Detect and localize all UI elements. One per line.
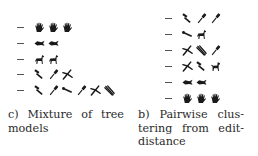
caption-word: clus- [217, 108, 244, 122]
hand-icon [210, 93, 221, 104]
caption-word: from [182, 122, 209, 136]
icon-group [182, 29, 207, 40]
pliers-icon [182, 61, 193, 72]
horse-icon [34, 54, 45, 65]
icon-group [182, 61, 221, 72]
pliers-icon [182, 45, 193, 56]
row-marker [17, 43, 24, 44]
icon-group [182, 93, 221, 104]
hammer-icon [182, 13, 193, 24]
scissors-icon [104, 85, 115, 96]
caption-word: tering [138, 122, 172, 136]
fish-icon [34, 38, 45, 49]
pliers-icon [90, 85, 101, 96]
caption-c: c) Mixture of tree models [8, 108, 124, 135]
icon-group [34, 22, 73, 33]
row-marker [165, 66, 172, 67]
scissors-icon [196, 45, 207, 56]
row-marker [165, 18, 172, 19]
hand-icon [48, 22, 59, 33]
screwdriver-icon [210, 45, 221, 56]
hammer-icon [34, 69, 45, 80]
caption-word: edit- [218, 122, 244, 136]
icon-group [34, 85, 115, 96]
caption-word: c) [8, 108, 19, 122]
cluster-row [17, 52, 59, 66]
icon-group [182, 77, 207, 88]
hand-icon [62, 22, 73, 33]
icon-group [34, 69, 73, 80]
row-marker [17, 74, 24, 75]
horse-icon [196, 29, 207, 40]
wrench-icon [182, 29, 193, 40]
wrench-icon [62, 85, 73, 96]
screwdriver-icon [48, 85, 59, 96]
cluster-row [165, 11, 221, 25]
row-marker [165, 50, 172, 51]
row-marker [17, 59, 24, 60]
cluster-row [165, 59, 221, 73]
screwdriver-icon [210, 13, 221, 24]
cluster-row [165, 91, 221, 105]
cluster-row [165, 75, 207, 89]
cluster-row [17, 83, 115, 97]
caption-line: b) Pairwise clus- [138, 108, 244, 122]
dog-icon [210, 61, 221, 72]
screwdriver-icon [196, 13, 207, 24]
horse-icon [48, 54, 59, 65]
row-marker [17, 27, 24, 28]
icon-group [182, 13, 221, 24]
screwdriver-icon [48, 69, 59, 80]
pliers-icon [62, 69, 73, 80]
cluster-row [17, 20, 73, 34]
caption-word: Pairwise [159, 108, 207, 122]
caption-line: distance [138, 135, 244, 149]
fish-icon [48, 38, 59, 49]
hand-icon [196, 93, 207, 104]
cluster-row [17, 67, 73, 81]
caption-word: b) [138, 108, 150, 122]
row-marker [165, 82, 172, 83]
hammer-icon [34, 85, 45, 96]
icon-group [34, 38, 59, 49]
caption-word: tree [101, 108, 124, 122]
hand-icon [34, 22, 45, 33]
screwdriver-icon [76, 85, 87, 96]
cluster-row [17, 36, 59, 50]
hammer-icon [196, 61, 207, 72]
caption-word: Mixture [27, 108, 72, 122]
row-marker [17, 90, 24, 91]
cluster-row [165, 27, 207, 41]
fish-icon [182, 77, 193, 88]
caption-word: of [81, 108, 92, 122]
row-marker [165, 98, 172, 99]
hand-icon [182, 93, 193, 104]
icon-group [182, 45, 221, 56]
cluster-row [165, 43, 221, 57]
caption-line: models [8, 122, 124, 136]
caption-line: c) Mixture of tree [8, 108, 124, 122]
caption-b: b) Pairwise clus- tering from edit- dist… [138, 108, 244, 149]
caption-line: tering from edit- [138, 122, 244, 136]
fish-icon [196, 77, 207, 88]
icon-group [34, 54, 59, 65]
row-marker [165, 34, 172, 35]
